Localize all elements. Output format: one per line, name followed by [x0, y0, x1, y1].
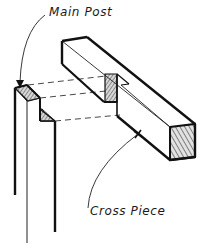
- main-post-label: Main Post: [49, 6, 112, 18]
- main-post-leader: [16, 15, 45, 88]
- main-post: [15, 85, 55, 243]
- cross-piece-notch-face: [105, 74, 117, 102]
- cross-piece-leader: [88, 130, 142, 208]
- cross-piece-label: Cross Piece: [90, 205, 166, 217]
- cross-piece-end-face: [170, 124, 195, 160]
